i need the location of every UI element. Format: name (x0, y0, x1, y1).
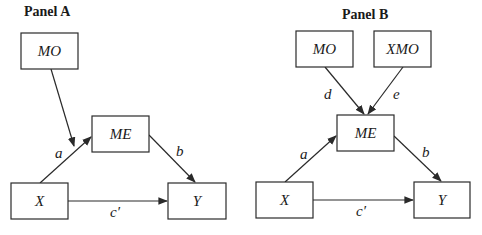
edge-a (40, 137, 91, 183)
panel-a: Panel A MO ME X Y a b c′ (11, 4, 226, 220)
panel-b-title: Panel B (342, 7, 388, 22)
edge-b-label: b (422, 144, 430, 160)
edge-c-prime-label: c′ (110, 204, 121, 220)
panel-b: Panel B MO XMO ME X Y d e a (256, 7, 470, 219)
node-mo-label: MO (37, 43, 61, 59)
edge-c-prime-label: c′ (356, 203, 367, 219)
panel-a-title: Panel A (24, 4, 71, 19)
node-mo: MO (296, 31, 353, 67)
node-y: Y (414, 182, 470, 218)
node-xmo: XMO (374, 31, 431, 67)
node-me: ME (337, 115, 394, 151)
edge-a-label: a (55, 145, 63, 161)
node-me-label: ME (109, 126, 132, 142)
edge-mo-to-path-a (51, 69, 74, 146)
node-me-label: ME (354, 125, 377, 141)
node-x: X (11, 183, 68, 219)
node-x-label: X (279, 192, 290, 208)
edge-a-label: a (300, 146, 308, 162)
node-mo: MO (21, 33, 78, 69)
edge-d-label: d (324, 86, 332, 102)
node-xmo-label: XMO (385, 41, 419, 57)
mediation-moderation-diagram: Panel A MO ME X Y a b c′ Panel B (0, 0, 482, 235)
edge-b-label: b (176, 143, 184, 159)
edge-a (285, 136, 336, 182)
node-x-label: X (34, 193, 45, 209)
edge-b (149, 135, 195, 182)
edge-e-label: e (393, 86, 400, 102)
edge-b (394, 136, 441, 181)
node-mo-label: MO (312, 41, 336, 57)
node-me: ME (92, 116, 149, 152)
node-y: Y (168, 183, 226, 219)
node-x: X (256, 182, 313, 218)
